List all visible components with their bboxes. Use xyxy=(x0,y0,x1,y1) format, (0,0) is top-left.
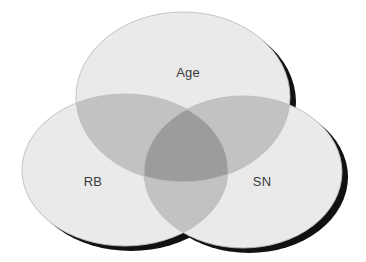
set-label-age: Age xyxy=(176,65,200,80)
set-label-rb: RB xyxy=(84,174,102,189)
venn-diagram-canvas: Age RB SN xyxy=(0,0,366,262)
set-label-sn: SN xyxy=(253,174,271,189)
venn-diagram: Age RB SN xyxy=(0,0,366,262)
